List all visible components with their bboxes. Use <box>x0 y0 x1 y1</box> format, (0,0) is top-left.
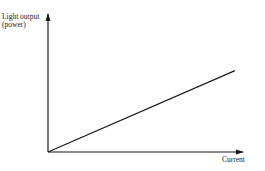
chart-plot <box>0 0 265 171</box>
data-line <box>48 71 235 152</box>
